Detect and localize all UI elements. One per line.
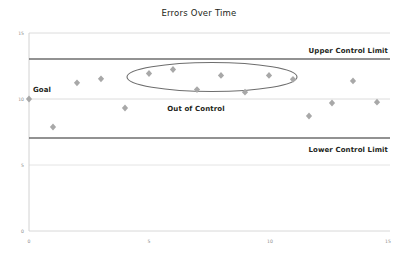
out-of-control-ellipse <box>127 63 297 92</box>
data-point <box>218 72 224 79</box>
upper-control-limit-label: Upper Control Limit <box>308 47 388 55</box>
lower-control-limit-label: Lower Control Limit <box>308 146 388 154</box>
x-axis-tick-labels: 0 5 10 15 <box>28 239 391 244</box>
out-of-control-label: Out of Control <box>167 105 224 113</box>
goal-label: Goal <box>33 86 51 94</box>
y-tick-5: 5 <box>21 163 24 168</box>
x-tick-15: 15 <box>385 239 391 244</box>
data-point <box>26 96 32 103</box>
y-tick-10: 10 <box>18 97 24 102</box>
x-tick-0: 0 <box>28 239 31 244</box>
y-tick-15: 15 <box>18 31 24 36</box>
data-point <box>74 79 80 86</box>
data-point <box>194 86 200 93</box>
data-point <box>122 105 128 112</box>
errors-over-time-chart: Errors Over Time 15 10 5 0 0 5 10 15 <box>0 0 398 254</box>
data-point <box>350 78 356 85</box>
y-tick-0: 0 <box>21 229 24 234</box>
data-point <box>266 72 272 79</box>
data-point <box>290 76 296 83</box>
data-point <box>50 124 56 131</box>
data-point <box>146 70 152 77</box>
x-tick-5: 5 <box>148 239 151 244</box>
data-point <box>98 75 104 82</box>
data-point <box>306 113 312 120</box>
data-point <box>329 100 335 107</box>
y-axis-tick-labels: 15 10 5 0 <box>18 31 24 234</box>
x-tick-10: 10 <box>267 239 273 244</box>
chart-canvas: 15 10 5 0 0 5 10 15 <box>0 0 398 254</box>
data-point <box>374 99 380 106</box>
data-point <box>170 66 176 73</box>
data-points <box>26 66 380 130</box>
